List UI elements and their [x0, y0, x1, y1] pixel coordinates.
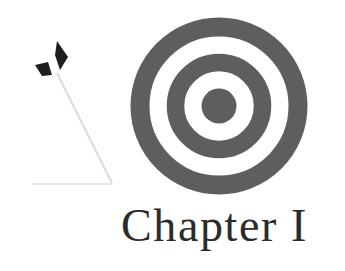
arrow-icon — [33, 41, 112, 184]
target-bullseye-icon — [140, 27, 298, 185]
chapter-title: Chapter I — [121, 200, 308, 252]
